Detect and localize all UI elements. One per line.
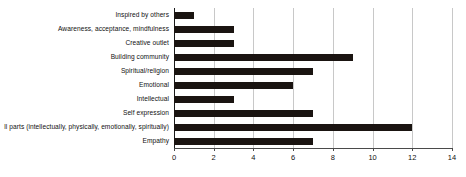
x-axis-tick xyxy=(412,148,413,151)
x-axis-line xyxy=(174,148,453,149)
category-label: ll parts (intellectually, physically, em… xyxy=(4,124,169,131)
bar xyxy=(174,124,412,131)
plot-area xyxy=(174,8,452,148)
x-axis-tick-label: 8 xyxy=(331,154,335,162)
category-label-row: Spiritual/religion xyxy=(0,64,172,78)
bar-chart: Inspired by others Awareness, acceptance… xyxy=(0,0,466,177)
x-axis-tick-label: 6 xyxy=(291,154,295,162)
x-axis-tick-label: 0 xyxy=(172,154,176,162)
bar xyxy=(174,26,234,33)
bar xyxy=(174,82,293,89)
x-axis-tick xyxy=(214,148,215,151)
bar-row xyxy=(174,64,452,78)
category-label-row: Awareness, acceptance, mindfulness xyxy=(0,22,172,36)
gridline xyxy=(452,8,453,148)
category-label: Self expression xyxy=(123,110,169,117)
x-axis-tick-label: 4 xyxy=(251,154,255,162)
bar-row xyxy=(174,36,452,50)
x-axis-tick xyxy=(253,148,254,151)
bar xyxy=(174,96,234,103)
category-label-row: Intellectual xyxy=(0,92,172,106)
bar xyxy=(174,110,313,117)
category-label: Creative outlet xyxy=(125,40,169,47)
bar-row xyxy=(174,106,452,120)
bar xyxy=(174,12,194,19)
category-label-column: Inspired by others Awareness, acceptance… xyxy=(0,8,172,148)
bar-row xyxy=(174,134,452,148)
category-label: Building community xyxy=(111,54,169,61)
category-label-row: Building community xyxy=(0,50,172,64)
bar-row xyxy=(174,120,452,134)
bar xyxy=(174,40,234,47)
x-axis-tick-label: 10 xyxy=(368,154,376,162)
x-axis-tick-label: 12 xyxy=(408,154,416,162)
category-label-row: Empathy xyxy=(0,134,172,148)
bar xyxy=(174,54,353,61)
x-axis-tick xyxy=(452,148,453,151)
x-axis-tick xyxy=(293,148,294,151)
category-label: Spiritual/religion xyxy=(121,68,169,75)
bar-row xyxy=(174,92,452,106)
bar-row xyxy=(174,22,452,36)
category-label-row: Creative outlet xyxy=(0,36,172,50)
category-label: Empathy xyxy=(143,138,169,145)
x-axis-tick xyxy=(373,148,374,151)
category-label-row: ll parts (intellectually, physically, em… xyxy=(0,120,172,134)
category-label: Inspired by others xyxy=(115,12,169,19)
category-label-row: Inspired by others xyxy=(0,8,172,22)
bar xyxy=(174,68,313,75)
bar-row xyxy=(174,8,452,22)
x-axis-tick-label: 2 xyxy=(212,154,216,162)
category-label: Awareness, acceptance, mindfulness xyxy=(58,26,169,33)
bar-row xyxy=(174,50,452,64)
category-label: Intellectual xyxy=(137,96,169,103)
category-label-row: Self expression xyxy=(0,106,172,120)
x-axis-tick xyxy=(174,148,175,151)
category-label-row: Emotional xyxy=(0,78,172,92)
bar xyxy=(174,138,313,145)
bars-layer xyxy=(174,8,452,148)
category-label: Emotional xyxy=(139,82,169,89)
x-axis-tick xyxy=(333,148,334,151)
x-axis-tick-label: 14 xyxy=(448,154,456,162)
bar-row xyxy=(174,78,452,92)
